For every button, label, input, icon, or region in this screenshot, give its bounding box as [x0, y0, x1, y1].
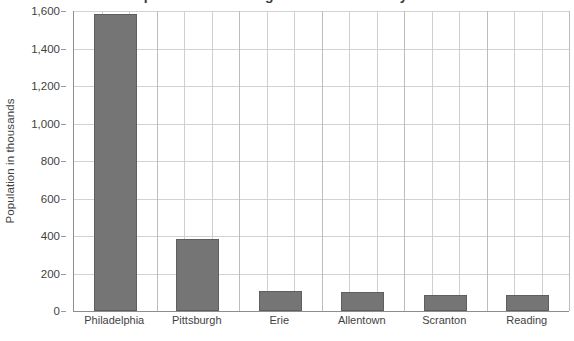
bar	[341, 292, 384, 311]
y-tick-label: 200	[41, 268, 60, 280]
bar-chart: Population of the largest cities in Penn…	[0, 0, 574, 341]
bar	[259, 291, 302, 311]
bar	[176, 239, 219, 311]
y-tick-label: 1,400	[31, 43, 60, 55]
y-tick-label: 800	[41, 155, 60, 167]
y-tick-label: 1,200	[31, 80, 60, 92]
y-axis-title-label: Population in thousands	[4, 98, 16, 223]
x-tick-label: Allentown	[338, 314, 386, 326]
y-tick-label: 600	[41, 193, 60, 205]
plot-area	[73, 11, 569, 312]
y-axis-title: Population in thousands	[1, 11, 18, 311]
y-tick-mark	[61, 199, 66, 200]
y-tick-label: 0	[54, 305, 60, 317]
y-tick-mark	[61, 161, 66, 162]
y-tick-mark	[61, 124, 66, 125]
chart-title: Population of the largest cities in Penn…	[0, 0, 574, 3]
bar	[424, 295, 467, 311]
x-axis-tick-labels: PhiladelphiaPittsburghErieAllentownScran…	[73, 314, 568, 334]
y-tick-label: 1,000	[31, 118, 60, 130]
y-tick-mark	[61, 311, 66, 312]
y-tick-label: 400	[41, 230, 60, 242]
bar	[94, 14, 137, 311]
y-tick-mark	[61, 49, 66, 50]
y-tick-mark	[61, 274, 66, 275]
x-tick-label: Philadelphia	[84, 314, 144, 326]
x-tick-label: Scranton	[422, 314, 466, 326]
y-tick-label: 1,600	[31, 5, 60, 17]
x-tick-label: Pittsburgh	[172, 314, 222, 326]
gridline-vertical	[569, 11, 570, 311]
y-tick-mark	[61, 11, 66, 12]
y-tick-mark	[61, 86, 66, 87]
y-axis-tick-labels: 02004006008001,0001,2001,4001,600	[20, 0, 66, 341]
x-tick-label: Reading	[506, 314, 547, 326]
y-tick-mark	[61, 236, 66, 237]
x-tick-label: Erie	[269, 314, 289, 326]
bar-series	[74, 11, 569, 311]
bar	[506, 295, 549, 311]
